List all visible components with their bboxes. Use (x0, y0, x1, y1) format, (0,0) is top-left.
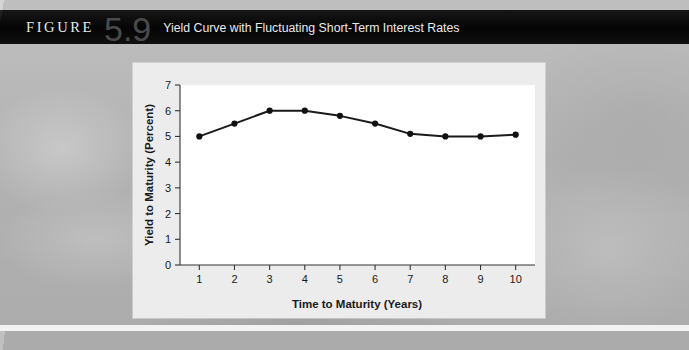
data-point (442, 133, 448, 139)
y-tick-label: 0 (165, 259, 171, 271)
figure-label: FIGURE (26, 19, 94, 36)
y-tick-label: 2 (165, 208, 171, 220)
data-point (372, 120, 378, 126)
data-point (337, 113, 343, 119)
y-axis-ticks (175, 85, 180, 265)
figure-page: FIGURE 5.9 Yield Curve with Fluctuating … (0, 0, 689, 350)
y-tick-label: 5 (165, 130, 171, 142)
figure-panel: 01234567 12345678910 Time to Maturity (Y… (133, 63, 545, 318)
y-tick-label: 4 (165, 156, 171, 168)
x-tick-label: 2 (231, 273, 237, 285)
x-tick-label: 10 (510, 273, 522, 285)
x-tick-label: 6 (372, 273, 378, 285)
y-tick-label: 3 (165, 182, 171, 194)
x-tick-label: 5 (337, 273, 343, 285)
x-tick-label: 9 (477, 273, 483, 285)
data-point (302, 108, 308, 114)
bottom-band (0, 331, 689, 350)
x-axis-ticks (199, 265, 515, 270)
y-axis-title: Yield to Maturity (Percent) (143, 104, 155, 246)
figure-title-bar: FIGURE 5.9 Yield Curve with Fluctuating … (0, 10, 689, 44)
data-point (267, 108, 273, 114)
y-tick-label: 6 (165, 105, 171, 117)
x-axis-title: Time to Maturity (Years) (292, 298, 422, 310)
x-tick-label: 7 (407, 273, 413, 285)
figure-number: 5.9 (104, 14, 151, 44)
data-point (231, 120, 237, 126)
chart-container: 01234567 12345678910 Time to Maturity (Y… (133, 63, 545, 318)
yield-curve-chart: 01234567 12345678910 Time to Maturity (Y… (133, 63, 545, 318)
x-tick-label: 8 (442, 273, 448, 285)
x-tick-label: 3 (267, 273, 273, 285)
y-axis-tick-labels: 01234567 (165, 79, 171, 271)
y-tick-label: 7 (165, 79, 171, 91)
data-point (477, 133, 483, 139)
data-point (513, 132, 519, 138)
x-axis-tick-labels: 12345678910 (196, 273, 522, 285)
x-tick-label: 4 (302, 273, 308, 285)
data-point (407, 131, 413, 137)
plot-area-background (180, 85, 535, 265)
y-tick-label: 1 (165, 233, 171, 245)
x-tick-label: 1 (196, 273, 202, 285)
figure-title: Yield Curve with Fluctuating Short-Term … (163, 21, 459, 35)
data-point (196, 133, 202, 139)
